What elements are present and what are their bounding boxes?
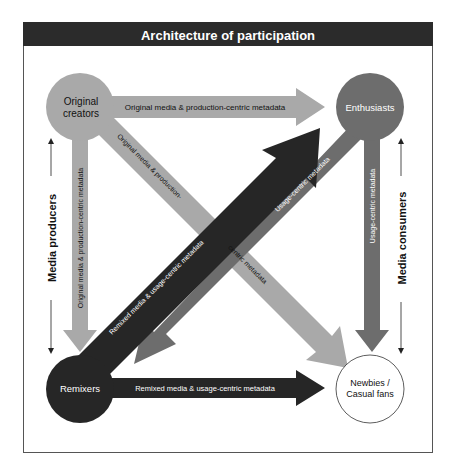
architecture-diagram: Architecture of participation Original c… xyxy=(0,0,455,473)
label-original-creators-1: Original xyxy=(64,96,98,107)
label-media-producers: Media producers xyxy=(46,194,58,282)
label-remixers-to-newbies: Remixed media & usage-centric metadata xyxy=(135,384,275,393)
label-oc-to-remixers: Original media & production-centric meta… xyxy=(77,168,85,309)
label-newbies-2: Casual fans xyxy=(346,389,394,399)
label-remixers: Remixers xyxy=(60,383,100,394)
label-newbies-1: Newbies / xyxy=(350,378,390,388)
label-oc-to-enthusiasts: Original media & production-centric meta… xyxy=(125,103,286,112)
diagram-title: Architecture of participation xyxy=(141,28,315,43)
label-media-consumers: Media consumers xyxy=(396,192,408,285)
label-enthusiasts-to-newbies: Usage-centric metadata xyxy=(369,169,377,243)
label-original-creators-2: creators xyxy=(63,108,99,119)
node-original-creators xyxy=(46,73,114,141)
label-enthusiasts: Enthusiasts xyxy=(345,102,394,113)
